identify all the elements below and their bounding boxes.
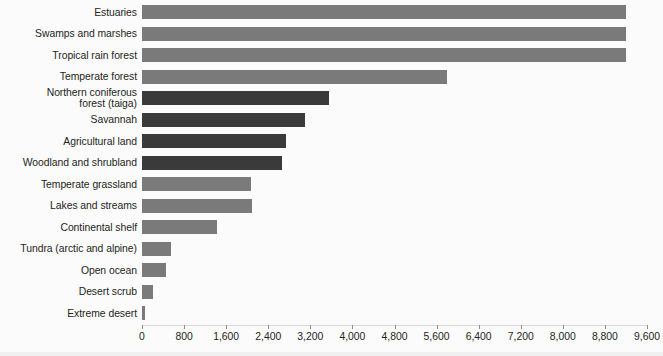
axis-tick — [310, 325, 311, 329]
chart-row: Estuaries — [0, 2, 663, 24]
axis-tick — [226, 325, 227, 329]
axis-tick-label: 4,800 — [381, 331, 407, 343]
axis-tick — [352, 325, 353, 329]
chart-row: Lakes and streams — [0, 195, 663, 217]
bar[interactable] — [142, 27, 626, 41]
chart-row: Woodland and shrubland — [0, 152, 663, 174]
category-label: Continental shelf — [0, 222, 137, 233]
bar[interactable] — [142, 156, 282, 170]
axis-tick — [647, 325, 648, 329]
chart-row: Tundra (arctic and alpine) — [0, 238, 663, 260]
axis-tick-label: 5,600 — [424, 331, 450, 343]
bar-track — [142, 91, 329, 105]
bar[interactable] — [142, 5, 626, 19]
category-label: Woodland and shrubland — [0, 157, 137, 168]
bar-track — [142, 27, 626, 41]
category-label: Temperate forest — [0, 71, 137, 82]
axis-tick-label: 8,800 — [592, 331, 618, 343]
chart-row: Northern coniferous forest (taiga) — [0, 88, 663, 110]
category-label: Agricultural land — [0, 136, 137, 147]
category-label: Extreme desert — [0, 308, 137, 319]
category-label: Savannah — [0, 114, 137, 125]
axis-tick — [521, 325, 522, 329]
chart-row: Swamps and marshes — [0, 23, 663, 45]
chart-row: Agricultural land — [0, 131, 663, 153]
axis-tick — [268, 325, 269, 329]
category-label: Tundra (arctic and alpine) — [0, 243, 137, 254]
bar-track — [142, 177, 251, 191]
bar-track — [142, 306, 145, 320]
bar[interactable] — [142, 199, 252, 213]
bar[interactable] — [142, 220, 217, 234]
bar[interactable] — [142, 113, 305, 127]
chart-row: Open ocean — [0, 260, 663, 282]
bar[interactable] — [142, 285, 153, 299]
category-label: Open ocean — [0, 265, 137, 276]
bar-track — [142, 220, 217, 234]
bar[interactable] — [142, 242, 171, 256]
category-label: Swamps and marshes — [0, 28, 137, 39]
category-label: Tropical rain forest — [0, 50, 137, 61]
bar-track — [142, 156, 282, 170]
plot-area: EstuariesSwamps and marshesTropical rain… — [0, 0, 663, 325]
axis-tick — [142, 325, 143, 329]
bar-track — [142, 5, 626, 19]
chart-row: Savannah — [0, 109, 663, 131]
bar[interactable] — [142, 177, 251, 191]
bar-chart: EstuariesSwamps and marshesTropical rain… — [0, 0, 663, 356]
chart-row: Temperate grassland — [0, 174, 663, 196]
axis-tick-label: 2,400 — [255, 331, 281, 343]
category-label: Desert scrub — [0, 286, 137, 297]
bar[interactable] — [142, 91, 329, 105]
bar[interactable] — [142, 48, 626, 62]
bar-track — [142, 199, 252, 213]
axis-tick-label: 4,000 — [339, 331, 365, 343]
category-label: Northern coniferous forest (taiga) — [0, 87, 137, 110]
bottom-edge — [0, 352, 663, 356]
chart-row: Temperate forest — [0, 66, 663, 88]
axis-tick-label: 7,200 — [508, 331, 534, 343]
bar-track — [142, 263, 166, 277]
axis-tick — [184, 325, 185, 329]
category-label: Lakes and streams — [0, 200, 137, 211]
axis-tick — [605, 325, 606, 329]
axis-tick — [563, 325, 564, 329]
axis-tick — [395, 325, 396, 329]
axis-tick — [437, 325, 438, 329]
axis-tick-label: 6,400 — [466, 331, 492, 343]
bar-track — [142, 242, 171, 256]
bar-track — [142, 70, 447, 84]
axis-tick — [479, 325, 480, 329]
axis-tick-label: 0 — [139, 331, 145, 343]
axis-tick-label: 9,600 — [634, 331, 660, 343]
chart-row: Extreme desert — [0, 303, 663, 325]
chart-row: Tropical rain forest — [0, 45, 663, 67]
bar[interactable] — [142, 306, 145, 320]
axis-tick-label: 800 — [175, 331, 192, 343]
axis-tick-label: 3,200 — [297, 331, 323, 343]
bar[interactable] — [142, 263, 166, 277]
bar[interactable] — [142, 134, 286, 148]
chart-row: Desert scrub — [0, 281, 663, 303]
bar-track — [142, 285, 153, 299]
bar-track — [142, 113, 305, 127]
axis-tick-label: 1,600 — [213, 331, 239, 343]
bar-track — [142, 134, 286, 148]
bar[interactable] — [142, 70, 447, 84]
category-label: Temperate grassland — [0, 179, 137, 190]
category-label: Estuaries — [0, 7, 137, 18]
axis-tick-label: 8,000 — [550, 331, 576, 343]
bar-track — [142, 48, 626, 62]
chart-row: Continental shelf — [0, 217, 663, 239]
